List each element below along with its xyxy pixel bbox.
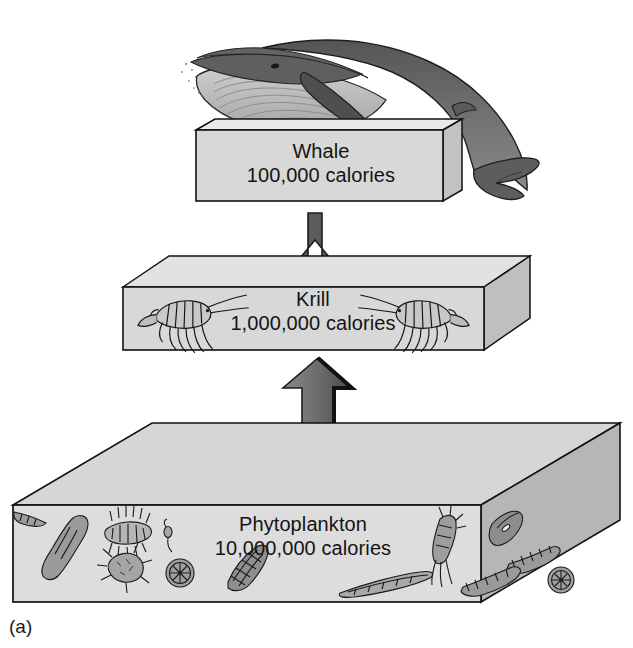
- phytoplankton-calories: 10,000,000 calories: [13, 537, 593, 561]
- krill-calories: 1,000,000 calories: [123, 312, 503, 336]
- plankton-centric-diatom: [548, 567, 574, 593]
- phytoplankton-box-label: Phytoplankton 10,000,000 calories: [13, 513, 593, 560]
- krill-box-label: Krill 1,000,000 calories: [123, 288, 503, 335]
- figure-canvas: Whale 100,000 calories Krill 1,000,000 c…: [0, 0, 633, 648]
- krill-box-top-face: [123, 256, 530, 287]
- phytoplankton-name: Phytoplankton: [13, 513, 593, 537]
- krill-name: Krill: [123, 288, 503, 312]
- whale-box-label: Whale 100,000 calories: [196, 140, 446, 187]
- whale-box-top-face: [196, 119, 462, 130]
- panel-label: (a): [9, 616, 32, 638]
- whale-name: Whale: [196, 140, 446, 164]
- plankton-centric-diatom: [166, 559, 194, 587]
- whale-calories: 100,000 calories: [196, 164, 446, 188]
